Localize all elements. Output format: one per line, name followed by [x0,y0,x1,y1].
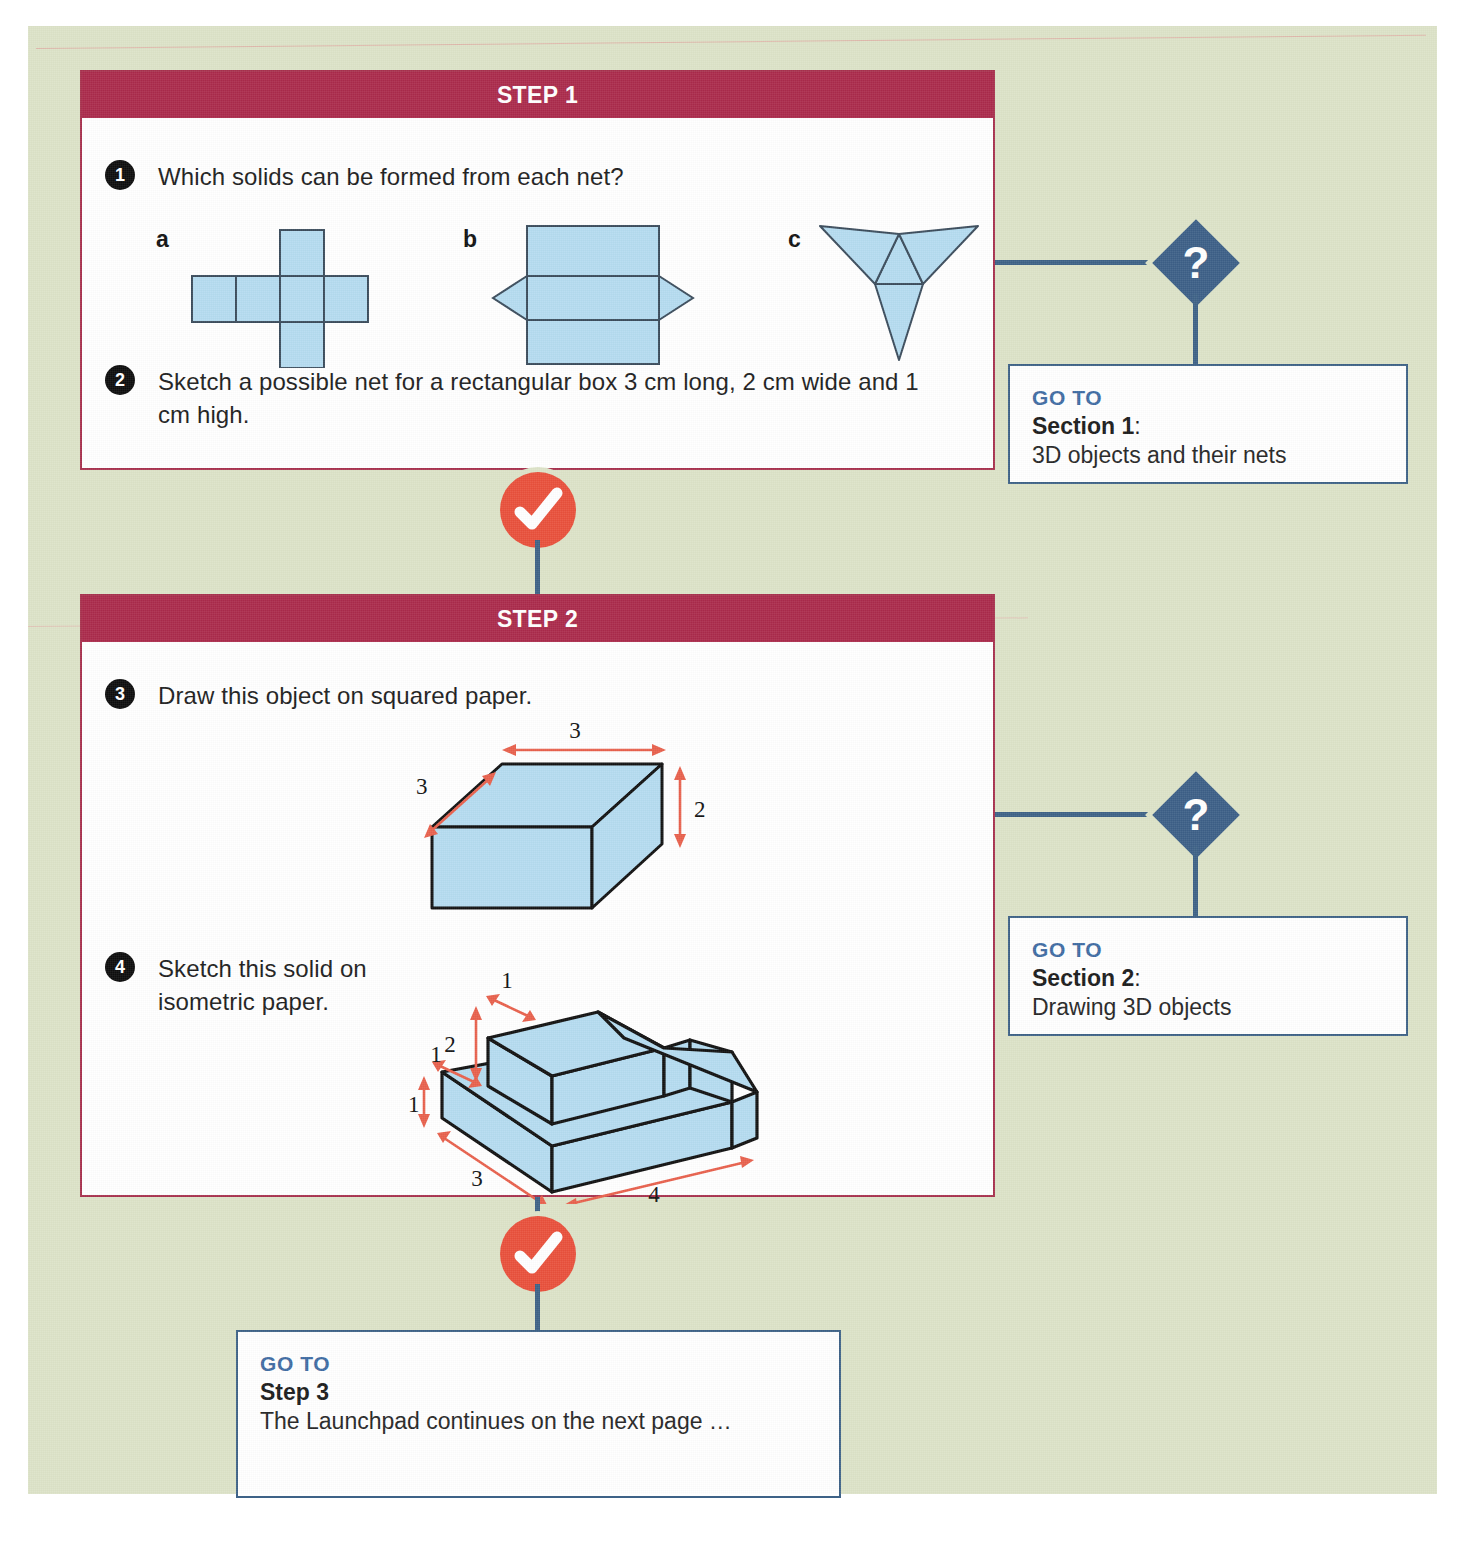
goto-label: GO TO [260,1352,817,1376]
connector-step2-to-diamond2 [995,812,1165,817]
goto-label: GO TO [1032,386,1384,410]
goto-section-name: Section 1 [1032,413,1134,439]
check-icon [500,472,576,548]
connector-check2-to-goto3 [535,1284,540,1332]
goto-section-line: Section 1: [1032,413,1384,440]
net-label-c: c [788,226,801,253]
goto-section-name: Section 2 [1032,965,1134,991]
check-badge-2 [500,1216,576,1292]
net-label-a: a [156,226,169,253]
triangular-prism-net-figure [487,218,702,368]
question-number-2: 2 [105,365,135,395]
goto-section-line: Section 2: [1032,965,1384,992]
step-2-body: 3 Draw this object on squared paper. [82,642,993,1195]
svg-text:2: 2 [444,1032,456,1057]
svg-text:3: 3 [416,774,428,799]
step-2-panel: STEP 2 3 Draw this object on squared pap… [80,594,995,1197]
svg-text:1: 1 [430,1042,442,1067]
goto-section-suffix: : [1134,413,1140,439]
connector-check1-to-step2 [535,540,540,600]
stepped-solid-figure: 1 2 1 1 3 4 [402,934,802,1204]
tetrahedron-net-figure [812,214,987,374]
question-4-text: Sketch this solid on isometric paper. [158,952,408,1018]
goto-section-line: Step 3 [260,1379,817,1406]
question-number-3: 3 [105,679,135,709]
step-1-header: STEP 1 [82,72,993,118]
connector-step1-to-diamond1 [995,260,1165,265]
connector-diamond1-to-goto1 [1193,294,1198,366]
page-sheet: STEP 1 1 Which solids can be formed from… [28,26,1437,1494]
step-1-body: 1 Which solids can be formed from each n… [82,118,993,468]
question-number-4: 4 [105,952,135,982]
question-1-text: Which solids can be formed from each net… [158,160,948,193]
step-2-header: STEP 2 [82,596,993,642]
goto-description: 3D objects and their nets [1032,442,1384,469]
scan-hairline-top [36,35,1426,49]
net-label-b: b [463,226,477,253]
goto-description: Drawing 3D objects [1032,994,1384,1021]
svg-text:4: 4 [648,1182,660,1204]
svg-text:3: 3 [569,722,581,743]
question-2-text: Sketch a possible net for a rectangular … [158,365,948,431]
goto-box-step-3[interactable]: GO TO Step 3 The Launchpad continues on … [236,1330,841,1498]
question-number-1: 1 [105,160,135,190]
goto-box-section-1[interactable]: GO TO Section 1: 3D objects and their ne… [1008,364,1408,484]
goto-section-suffix: : [1134,965,1140,991]
goto-box-section-2[interactable]: GO TO Section 2: Drawing 3D objects [1008,916,1408,1036]
svg-text:1: 1 [408,1092,420,1117]
goto-label: GO TO [1032,938,1384,962]
svg-text:1: 1 [501,968,513,993]
svg-text:2: 2 [694,797,706,822]
step-1-panel: STEP 1 1 Which solids can be formed from… [80,70,995,470]
check-badge-1 [500,472,576,548]
question-3-text: Draw this object on squared paper. [158,679,858,712]
connector-diamond2-to-goto2 [1193,846,1198,918]
svg-text:3: 3 [471,1166,483,1191]
cube-net-figure [182,218,382,368]
check-icon [500,1216,576,1292]
goto-description: The Launchpad continues on the next page… [260,1408,817,1435]
goto-section-name: Step 3 [260,1379,329,1405]
cuboid-figure: 3 3 2 [412,722,722,932]
